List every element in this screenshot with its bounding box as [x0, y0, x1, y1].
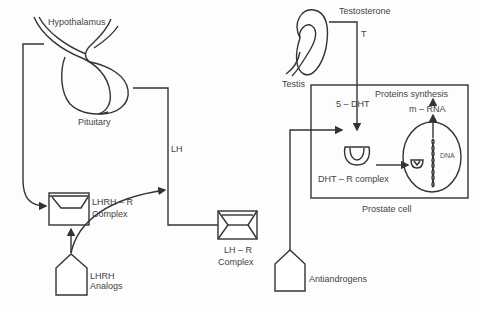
- antiandrogens-label: Antiandrogens: [309, 274, 368, 284]
- diagram-canvas: Hypothalamus Pituitary LHRH – R Complex …: [0, 0, 478, 311]
- lhrh-analogs-label-line1: LHRH: [90, 271, 115, 281]
- dna-icon: [432, 139, 434, 187]
- prostate-cell-label: Prostate cell: [362, 204, 412, 214]
- dht-r-complex-label: DHT – R complex: [318, 174, 389, 184]
- antiandrogens-connector: [290, 130, 342, 250]
- dna-label: DNA: [440, 152, 455, 159]
- testosterone-connector: [329, 22, 357, 130]
- lhrh-analogs-label-line2: Analogs: [90, 281, 123, 291]
- five-dht-label: 5 – DHT: [336, 99, 370, 109]
- lh-r-complex-label-line1: LH – R: [224, 245, 253, 255]
- lh-r-complex-icon: [218, 211, 257, 239]
- proteins-synthesis-label: Proteins synthesis: [375, 89, 449, 99]
- testis-icon: [286, 10, 328, 76]
- hypothalamus-to-lhrh-r-connector: [23, 44, 46, 206]
- lhrh-analogs-icon: [56, 254, 87, 295]
- pituitary-label: Pituitary: [78, 117, 111, 127]
- pituitary-lh-connector: [133, 88, 218, 225]
- nucleus-complex-icon: [411, 160, 423, 168]
- testis-label: Testis: [282, 79, 306, 89]
- t-label: T: [361, 29, 367, 39]
- hypothalamus-label: Hypothalamus: [48, 17, 106, 27]
- antiandrogens-icon: [275, 250, 305, 291]
- lhrh-r-complex-icon: [49, 193, 89, 225]
- m-rna-label: m – RNA: [409, 104, 446, 114]
- lh-r-complex-label-line2: Complex: [218, 257, 254, 267]
- dht-receptor-icon: [345, 147, 370, 165]
- lh-label: LH: [171, 144, 183, 154]
- hypothalamus-pituitary-icon: [34, 17, 128, 114]
- testosterone-label: Testosterone: [339, 6, 391, 16]
